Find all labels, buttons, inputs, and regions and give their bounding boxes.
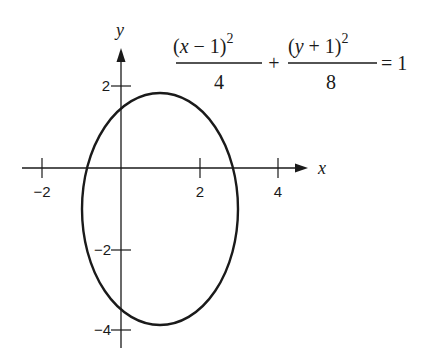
eq-term2-denominator: 8 [326,71,336,93]
ellipse-curve [82,93,238,325]
eq-term1-denominator: 4 [214,71,224,93]
eq-term1-numerator: (x − 1)2 [173,31,234,58]
x-axis-arrow-icon [295,164,308,173]
y-tick-label-neg2: −2 [94,241,111,258]
eq-term2-numerator: (y + 1)2 [288,31,349,58]
eq-plus: + [268,52,279,74]
equation: (x − 1)2 4 + (y + 1)2 8 = 1 [173,31,407,93]
ellipse-diagram: −2 2 4 2 −2 −4 x y (x − 1)2 4 + (y + 1)2… [0,0,423,357]
eq-equals-one: = 1 [381,52,407,74]
y-tick-label-2: 2 [102,77,110,94]
x-tick-label-neg2: −2 [33,183,50,200]
x-axis-label: x [317,158,326,178]
y-tick-label-neg4: −4 [94,321,111,338]
x-tick-label-4: 4 [274,183,282,200]
y-axis-label: y [114,20,124,40]
y-axis-arrow-icon [117,48,126,62]
x-tick-label-2: 2 [196,183,204,200]
